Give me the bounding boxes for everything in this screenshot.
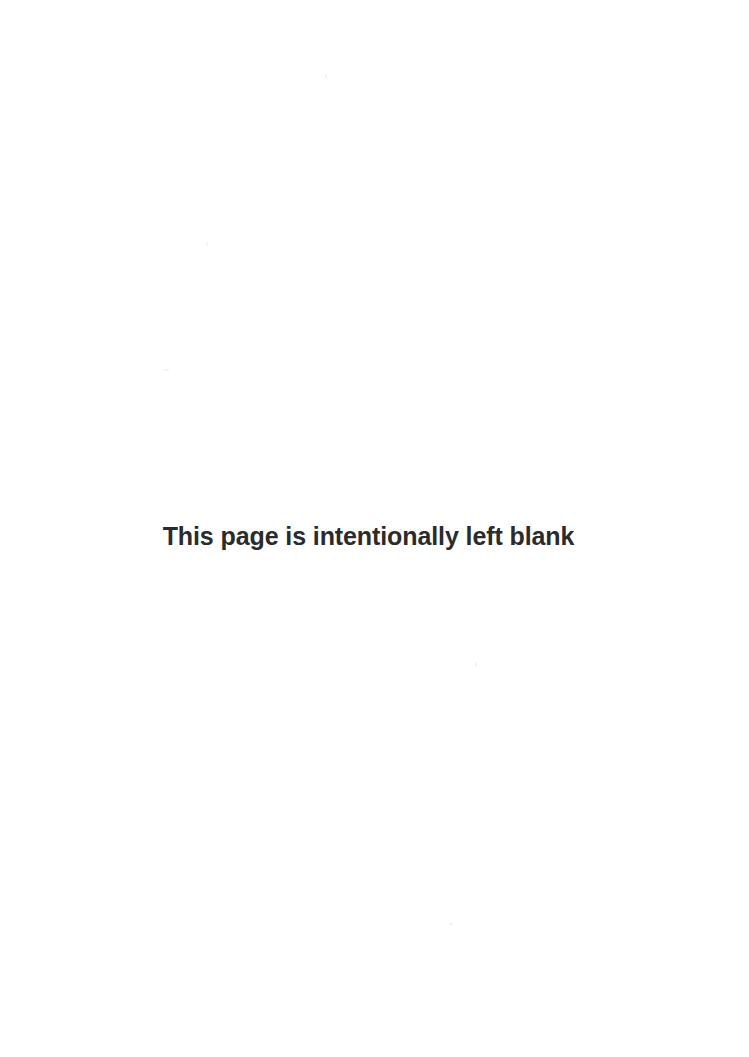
scan-speck [325,74,327,79]
scan-speck [164,369,169,371]
scan-speck [449,923,453,925]
scan-speck [475,662,477,667]
scan-speck [206,242,208,246]
blank-page-notice: This page is intentionally left blank [0,521,749,551]
document-page: This page is intentionally left blank [0,0,749,1057]
